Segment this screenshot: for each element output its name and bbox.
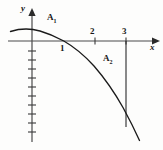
graph-canvas — [0, 0, 163, 150]
math-figure: y x 1 2 3 A1 A2 — [0, 0, 163, 150]
region-label-a1: A1 — [47, 13, 57, 24]
region-label-a2: A2 — [103, 54, 113, 65]
curve-path — [11, 29, 140, 140]
x-tick-label-2: 2 — [90, 27, 95, 36]
y-axis-label: y — [21, 4, 25, 13]
region-a1-subscript: 1 — [54, 18, 57, 24]
region-a2-subscript: 2 — [110, 59, 113, 65]
x-tick-label-1: 1 — [60, 44, 65, 53]
y-axis-arrowhead — [28, 8, 35, 16]
x-axis-label: x — [150, 43, 155, 52]
x-tick-label-3: 3 — [122, 27, 127, 36]
